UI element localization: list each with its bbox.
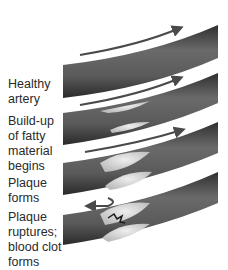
turbulent-flow-icon <box>88 198 113 206</box>
label-plaque-forms: Plaque forms <box>8 176 47 206</box>
label-buildup: Build-up of fatty material begins <box>8 114 54 174</box>
label-healthy-artery: Healthy artery <box>8 77 50 107</box>
label-plaque-ruptures: Plaque ruptures; blood clot forms <box>8 210 62 270</box>
